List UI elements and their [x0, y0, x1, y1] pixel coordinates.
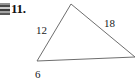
worksheet-figure-page: 11. 12 18 6: [0, 0, 135, 84]
side-length-label-left: 12: [36, 25, 47, 36]
side-length-label-right: 18: [104, 18, 115, 29]
triangle-outline: [37, 4, 135, 61]
triangle-figure: [0, 0, 135, 84]
side-length-label-bottom: 6: [35, 69, 41, 80]
